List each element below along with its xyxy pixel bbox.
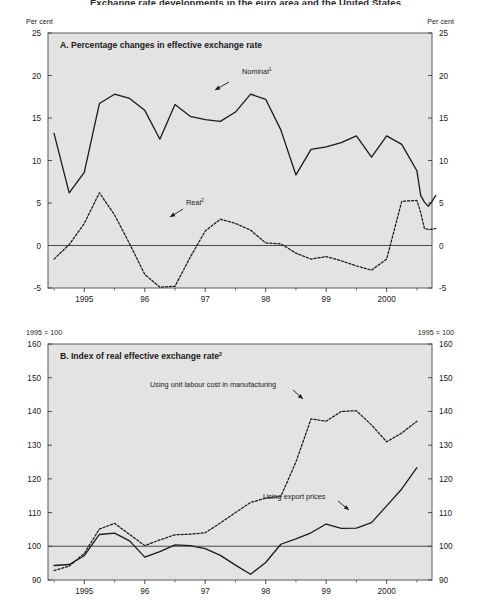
annotation-superscript: 1 (269, 66, 272, 72)
panelB-y-tick-label: 110 (439, 509, 452, 518)
figure-title: Exchange rate developments in the euro a… (0, 0, 491, 5)
panelA-x-tick-label: 97 (201, 295, 211, 304)
exchange-rate-figure: Per centPer cent25252020151510105500-5-5… (0, 0, 491, 607)
panelA-y-tick-label: 25 (32, 29, 42, 38)
panelA-unit-label-left: Per cent (26, 17, 53, 26)
panelB-y-tick-label: 140 (27, 407, 41, 416)
panelB-y-tick-label: 120 (27, 475, 41, 484)
panelB-title: B. Index of real effective exchange rate… (60, 351, 222, 361)
panelB-x-tick-label: 98 (261, 587, 271, 596)
panelA-x-tick-label: 2000 (378, 295, 397, 304)
panelA-plot-area (48, 33, 432, 288)
panelA-y-tick-label: 15 (439, 114, 449, 123)
panelA-y-tick-label: 10 (439, 157, 449, 166)
panelA-y-tick-label: -5 (439, 284, 447, 293)
panelA-y-tick-label: 15 (32, 114, 42, 123)
panelA-y-tick-label: 20 (32, 72, 42, 81)
panelA-unit-label-right: Per cent (427, 17, 454, 26)
panelB-group: 1995 = 1001995 = 10016016015015014014013… (26, 328, 454, 596)
annotation-nominal: Nominal1 (242, 66, 272, 76)
panelB-title-superscript: 2 (219, 351, 222, 357)
panelB-y-tick-label: 150 (439, 374, 453, 383)
panelA-y-tick-label: 5 (36, 199, 41, 208)
panelB-y-tick-label: 130 (27, 441, 41, 450)
panelB-y-tick-label: 140 (439, 407, 453, 416)
panelB-y-tick-label: 120 (439, 475, 453, 484)
panelA-y-tick-label: 0 (36, 242, 41, 251)
annotation-unit-labour-cost: Using unit labour cost in manufacturing (150, 380, 276, 389)
panelB-x-tick-label: 1995 (75, 587, 94, 596)
panelB-y-tick-label: 160 (27, 340, 41, 349)
panelB-unit-label-left: 1995 = 100 (26, 328, 62, 337)
panelA-y-tick-label: -5 (34, 284, 42, 293)
panelA-y-tick-label: 20 (439, 72, 449, 81)
annotation-superscript: 2 (201, 197, 204, 203)
panelB-y-tick-label: 90 (32, 576, 42, 585)
panelB-y-tick-label: 130 (439, 441, 453, 450)
panelB-x-tick-label: 99 (322, 587, 332, 596)
panelA-x-tick-label: 99 (322, 295, 332, 304)
panelB-y-tick-label: 110 (28, 509, 41, 518)
panelB-x-tick-label: 2000 (378, 587, 397, 596)
panelB-unit-label-right: 1995 = 100 (418, 328, 454, 337)
panelB-x-tick-label: 96 (140, 587, 150, 596)
panelA-y-tick-label: 5 (439, 199, 444, 208)
panelB-y-tick-label: 100 (439, 542, 453, 551)
panelA-x-tick-label: 98 (261, 295, 271, 304)
panelA-group: Per centPer cent25252020151510105500-5-5… (26, 17, 454, 304)
panelB-y-tick-label: 100 (27, 542, 41, 551)
panelA-title: A. Percentage changes in effective excha… (60, 40, 262, 50)
panelA-y-tick-label: 10 (32, 157, 42, 166)
figure-container: Exchange rate developments in the euro a… (0, 0, 491, 607)
panelA-y-tick-label: 0 (439, 242, 444, 251)
panelB-x-tick-label: 97 (201, 587, 211, 596)
panelB-y-tick-label: 90 (439, 576, 449, 585)
panelA-x-tick-label: 96 (140, 295, 150, 304)
panelB-y-tick-label: 150 (27, 374, 41, 383)
panelB-y-tick-label: 160 (439, 340, 453, 349)
panelA-x-tick-label: 1995 (75, 295, 94, 304)
annotation-export-prices: Using export prices (263, 492, 326, 501)
panelA-y-tick-label: 25 (439, 29, 449, 38)
